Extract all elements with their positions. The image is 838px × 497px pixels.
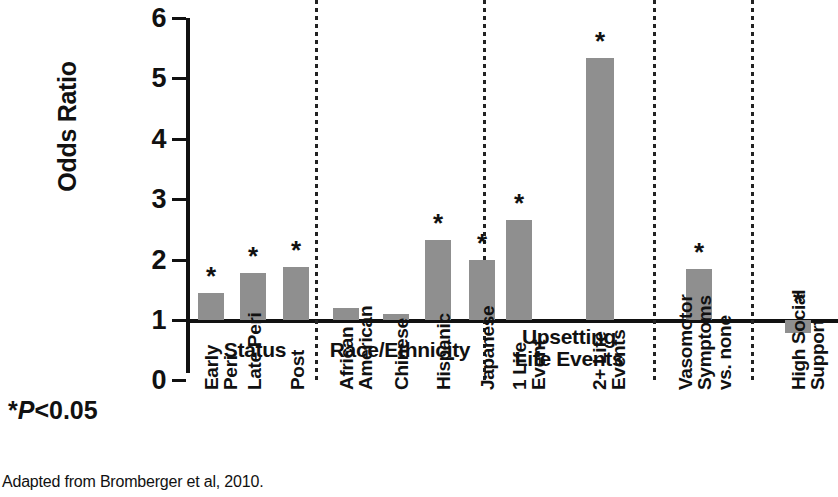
bar-0 (198, 293, 224, 320)
y-tick-4 (172, 138, 186, 141)
significance-star-8: * (578, 28, 622, 54)
category-label-9: Vasomotor Symptoms vs. none (676, 295, 734, 391)
y-tick-label-6: 6 (128, 5, 166, 32)
y-tick-label-4: 4 (128, 125, 166, 152)
y-tick-1 (172, 319, 186, 322)
y-axis-title: Odds Ratio (53, 27, 82, 227)
y-tick-label-0: 0 (128, 367, 166, 394)
group-divider-3 (653, 0, 656, 380)
y-tick-label-1: 1 (128, 307, 166, 334)
bar-5 (425, 240, 451, 320)
significance-star-5: * (417, 210, 459, 236)
y-tick-6 (172, 17, 186, 20)
group-title-1: Race/Ethnicity (318, 339, 482, 361)
bar-8 (586, 58, 614, 320)
category-label-10: High Social Support (789, 290, 828, 390)
significance-star-9: * (678, 239, 720, 265)
significance-star-1: * (232, 243, 274, 269)
odds-ratio-bar-chart: Odds Ratio 6543210 ********* Early PeriL… (0, 0, 838, 497)
p-value-star: * (8, 396, 18, 424)
significance-star-2: * (275, 237, 317, 263)
bar-7 (506, 220, 532, 320)
y-tick-2 (172, 259, 186, 262)
y-tick-label-5: 5 (128, 65, 166, 92)
group-divider-4 (751, 0, 754, 380)
y-tick-label-2: 2 (128, 246, 166, 273)
y-tick-3 (172, 198, 186, 201)
group-title-0: Status (196, 339, 314, 361)
group-title-2: Upsetting Life Events (487, 326, 651, 371)
y-tick-5 (172, 77, 186, 80)
source-attribution: Adapted from Bromberger et al, 2010. (2, 473, 263, 491)
p-value-footnote: *P<0.05 (8, 396, 98, 425)
significance-star-0: * (190, 263, 232, 289)
p-value-symbol: P (18, 396, 35, 424)
group-divider-1 (315, 0, 318, 380)
bar-2 (283, 267, 309, 320)
y-tick-0 (172, 379, 186, 382)
p-value-threshold: <0.05 (34, 396, 97, 424)
y-tick-label-3: 3 (128, 186, 166, 213)
significance-star-7: * (498, 190, 540, 216)
significance-star-6: * (461, 230, 503, 256)
